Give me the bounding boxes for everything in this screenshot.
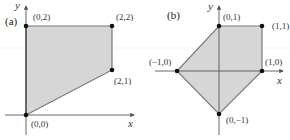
vertex-point [24,113,29,118]
diagram-canvas: (a) y x (0,2) (2,2) (2,1) (0,0) (b) y x … [0,0,290,140]
vertex-label: (0,1) [223,12,240,22]
panel-b: (b) y x (0,1) (1,1) (1,0) (0,−1) (−1,0) [149,0,289,135]
vertex-point [217,24,222,29]
vertex-point [260,24,265,29]
y-axis-label-b: y [207,0,213,12]
vertex-point [110,24,115,29]
vertex-label: (0,2) [33,12,50,22]
panel-label-b: (b) [167,9,180,22]
vertex-point [24,24,29,29]
vertex-point [217,112,222,117]
vertex-point [175,69,180,74]
feasible-region-b [177,26,262,114]
vertex-point [110,68,115,73]
panel-label-a: (a) [5,15,18,28]
vertex-label: (0,−1) [226,115,248,125]
vertex-label: (2,1) [114,76,131,86]
vertex-label: (0,0) [31,119,48,129]
vertex-label: (1,1) [272,21,289,31]
vertex-label: (1,0) [265,57,282,67]
feasible-region-a [26,26,112,115]
y-axis-label-a: y [14,0,20,11]
vertex-label: (−1,0) [149,57,171,67]
vertex-label: (2,2) [116,12,133,22]
panel-a: (a) y x (0,2) (2,2) (2,1) (0,0) [5,0,134,135]
x-axis-label-b: x [276,74,282,86]
vertex-point [260,69,265,74]
x-axis-label-a: x [127,117,133,129]
